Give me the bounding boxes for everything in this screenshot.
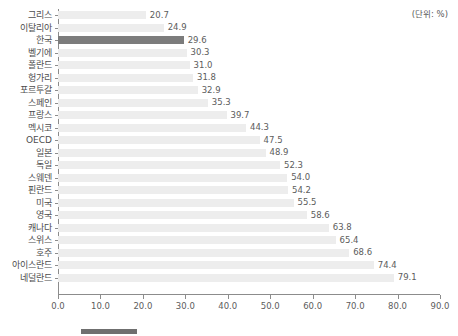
- category-label: 포르투갈: [0, 84, 55, 97]
- x-axis-tick-label: 80.0: [388, 301, 407, 311]
- category-label: 스웨덴: [0, 172, 55, 185]
- x-axis-tick-label: 70.0: [346, 301, 365, 311]
- x-axis-tick-label: 60.0: [303, 301, 322, 311]
- legend-swatch: [81, 329, 137, 334]
- x-axis-tick-label: 50.0: [261, 301, 280, 311]
- category-label: 스위스: [0, 234, 55, 247]
- x-axis-tick-label: 30.0: [176, 301, 195, 311]
- category-label: 멕시코: [0, 122, 55, 135]
- category-label: 미국: [0, 197, 55, 210]
- category-label: 헝가리: [0, 72, 55, 85]
- category-label: 폴란드: [0, 59, 55, 72]
- category-label: 이탈리아: [0, 22, 55, 35]
- category-label: 한국: [0, 34, 55, 47]
- legend: [0, 328, 458, 336]
- category-label: 핀란드: [0, 184, 55, 197]
- category-label: 독일: [0, 159, 55, 172]
- bar-chart-figure: (단위: %) 그리스이탈리아한국벨기에폴란드헝가리포르투갈스페인프랑스멕시코O…: [0, 0, 458, 336]
- category-label: 아이스란드: [0, 259, 55, 272]
- x-axis-tick-label: 90.0: [431, 301, 450, 311]
- category-axis-labels: 그리스이탈리아한국벨기에폴란드헝가리포르투갈스페인프랑스멕시코OECD일본독일스…: [0, 9, 55, 294]
- x-axis-tick-label: 40.0: [218, 301, 237, 311]
- category-label: OECD: [0, 134, 55, 147]
- category-label: 벨기에: [0, 47, 55, 60]
- x-axis-labels: 0.010.020.030.040.050.060.070.080.090.0: [58, 0, 440, 336]
- category-label: 일본: [0, 147, 55, 160]
- category-label: 그리스: [0, 9, 55, 22]
- x-axis-tick: [440, 295, 441, 299]
- category-label: 캐나다: [0, 222, 55, 235]
- x-axis-tick-label: 0.0: [51, 301, 65, 311]
- category-label: 호주: [0, 247, 55, 260]
- category-label: 스페인: [0, 97, 55, 110]
- x-axis-tick-label: 20.0: [133, 301, 152, 311]
- category-label: 네덜란드: [0, 272, 55, 285]
- category-label: 영국: [0, 209, 55, 222]
- category-label: 프랑스: [0, 109, 55, 122]
- x-axis-tick-label: 10.0: [91, 301, 110, 311]
